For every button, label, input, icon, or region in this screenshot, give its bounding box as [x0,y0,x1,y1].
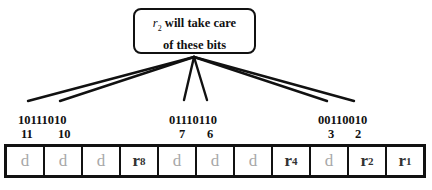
bit-index: 6 [207,127,213,141]
bit-index: 11 [21,127,33,141]
cell-r1: r1 [387,147,423,175]
cell-data: d [311,147,349,175]
bit-group-3: 00110010 3 2 [318,113,367,141]
bit-index: 3 [328,127,334,141]
cell-data: d [45,147,83,175]
bit-indices: 7 6 [169,127,217,141]
bit-index: 7 [179,127,185,141]
cell-data: d [83,147,121,175]
cell-r2: r2 [349,147,387,175]
bit-indices: 3 2 [318,127,367,141]
bit-string: 00110010 [318,113,367,127]
bit-group-1: 10111010 11 10 [18,113,67,141]
cell-data: d [197,147,235,175]
bit-index: 2 [355,127,361,141]
callout-text-1: will take care [162,16,236,30]
bit-cell-row: d d d r8 d d d r4 d r2 r1 [4,144,426,178]
bit-group-2: 01110110 7 6 [169,113,217,141]
callout-box: r2 will take care of these bits [133,8,256,54]
bit-string: 01110110 [169,113,217,127]
cell-data: d [159,147,197,175]
bit-indices: 11 10 [18,127,67,141]
cell-data: d [7,147,45,175]
bit-index: 10 [58,127,71,141]
cell-data: d [235,147,273,175]
cell-r4: r4 [273,147,311,175]
callout-line-2: of these bits [135,37,254,53]
bit-string: 10111010 [18,113,67,127]
callout-line-1: r2 will take care [135,15,254,37]
cell-r8: r8 [121,147,159,175]
